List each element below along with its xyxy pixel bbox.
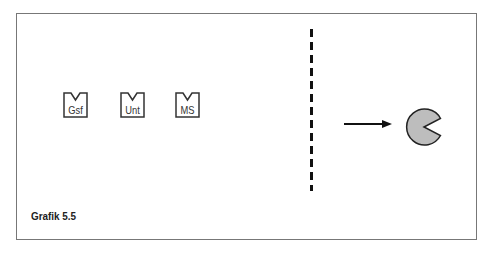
box-label: Unt — [122, 104, 143, 116]
arrow-right-icon — [344, 120, 392, 128]
box-label: Gsf — [65, 104, 86, 116]
notched-box-gsf: Gsf — [63, 92, 88, 118]
pacman-shape-icon — [405, 108, 443, 146]
figure-caption: Grafik 5.5 — [31, 210, 76, 222]
notched-box-ms: MS — [175, 92, 200, 118]
notched-box-unt: Unt — [120, 92, 145, 118]
box-label: MS — [177, 104, 198, 116]
dashed-divider — [310, 29, 313, 191]
